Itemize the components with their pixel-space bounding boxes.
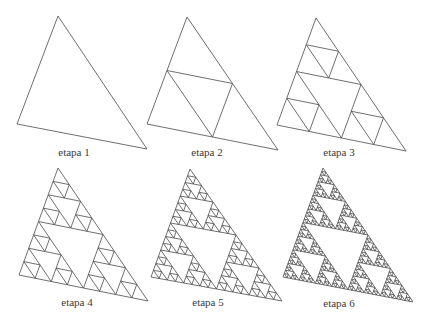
stage-2-triangle [147,17,278,150]
stage-4-triangle [19,168,148,301]
stage-1-triangle [17,16,147,149]
stage-2-label: etapa 2 [191,146,222,158]
stage-1-label: etapa 1 [58,146,89,158]
stage-3-label: etapa 3 [323,146,354,158]
stage-6-triangle [283,168,413,302]
stage-6-label: etapa 6 [323,297,354,309]
stage-3-triangle [277,18,406,151]
stage-4-label: etapa 4 [61,296,92,308]
sierpinski-figure [0,0,428,325]
stage-5-label: etapa 5 [192,296,223,308]
stage-5-triangle [151,169,282,301]
